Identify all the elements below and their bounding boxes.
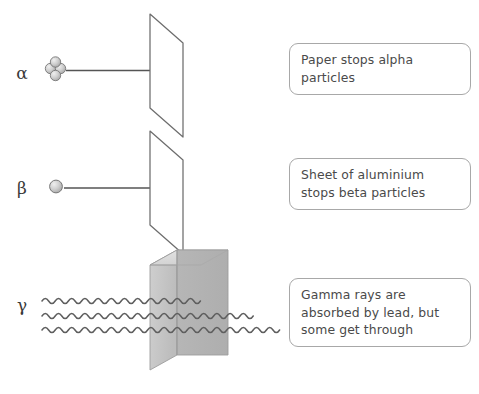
callout-lead-absorbs-gamma: Gamma rays are absorbed by lead, but som… — [289, 278, 471, 347]
lead-block — [150, 250, 228, 370]
callout-paper-stops-alpha: Paper stops alpha particles — [289, 43, 471, 95]
paper-sheet — [150, 14, 183, 137]
gamma-symbol-label: γ — [17, 295, 27, 315]
lead-block-front-face — [177, 250, 228, 355]
callout-aluminium-stops-beta: Sheet of aluminium stops beta particles — [289, 158, 471, 210]
alpha-particle-cluster-icon — [45, 57, 65, 81]
radiation-penetration-diagram: α β γ — [0, 0, 479, 394]
alpha-symbol-label: α — [16, 63, 28, 83]
lead-block-left-face — [150, 250, 177, 370]
beta-symbol-label: β — [17, 178, 27, 198]
aluminium-sheet — [150, 131, 183, 254]
beta-particle-circle-icon — [50, 180, 63, 193]
